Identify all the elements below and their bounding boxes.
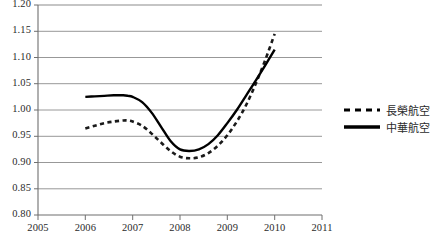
x-axis-tick-label: 2009 xyxy=(203,222,251,233)
x-axis-tick-label: 2007 xyxy=(109,222,157,233)
legend-line-samples xyxy=(344,110,380,127)
y-axis-tick-label: 1.20 xyxy=(0,0,31,9)
x-axis-tick-label: 2011 xyxy=(298,222,346,233)
y-axis-tick-label: 1.10 xyxy=(0,51,31,62)
x-axis-tick-label: 2010 xyxy=(251,222,299,233)
chart-canvas xyxy=(0,0,436,252)
legend-label-2: 中華航空 xyxy=(386,119,430,135)
line-chart: 1.201.151.101.051.000.950.900.850.80 200… xyxy=(0,0,436,252)
legend-label-1: 長榮航空 xyxy=(386,102,430,118)
y-axis-tick-label: 1.00 xyxy=(0,103,31,114)
y-axis-tick-label: 1.15 xyxy=(0,24,31,35)
x-axis-tick-label: 2005 xyxy=(14,222,62,233)
y-axis-tick-label: 0.85 xyxy=(0,182,31,193)
x-axis-ticks xyxy=(38,215,322,220)
x-axis-tick-label: 2008 xyxy=(156,222,204,233)
series-line-2 xyxy=(85,50,274,151)
y-axis-ticks xyxy=(34,5,38,215)
x-axis-tick-label: 2006 xyxy=(61,222,109,233)
data-series-layer xyxy=(85,34,274,158)
y-axis-tick-label: 1.05 xyxy=(0,77,31,88)
y-axis-tick-label: 0.95 xyxy=(0,129,31,140)
y-axis-tick-label: 0.90 xyxy=(0,156,31,167)
gridlines xyxy=(38,5,322,189)
y-axis-tick-label: 0.80 xyxy=(0,208,31,219)
